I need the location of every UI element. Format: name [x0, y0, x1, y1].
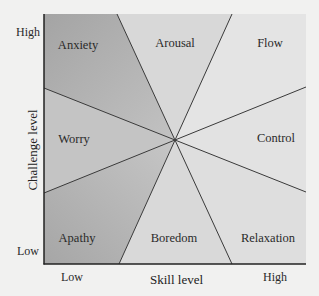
- y-axis-high-label: High: [16, 26, 40, 38]
- region-label-anxiety: Anxiety: [58, 39, 98, 52]
- y-axis-title: Challenge level: [26, 109, 39, 190]
- x-axis-high-label: High: [263, 271, 287, 283]
- region-label-flow: Flow: [257, 37, 283, 50]
- region-label-boredom: Boredom: [151, 232, 198, 245]
- region-label-apathy: Apathy: [59, 232, 96, 245]
- x-axis-title: Skill level: [150, 273, 203, 286]
- region-label-arousal: Arousal: [155, 37, 195, 50]
- region-label-control: Control: [257, 132, 295, 145]
- region-label-relaxation: Relaxation: [241, 232, 295, 245]
- x-axis-low-label: Low: [61, 271, 83, 283]
- y-axis-low-label: Low: [17, 245, 39, 257]
- region-label-worry: Worry: [58, 133, 90, 146]
- flow-diagram: Anxiety Arousal Flow Worry Control Apath…: [0, 0, 319, 296]
